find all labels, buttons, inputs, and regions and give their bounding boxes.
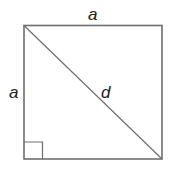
label-top-side: a <box>88 5 97 24</box>
label-diagonal: d <box>101 83 111 102</box>
square-diagram: a a d <box>0 0 170 174</box>
diagonal-line <box>24 26 162 160</box>
right-angle-marker <box>24 142 43 159</box>
label-left-side: a <box>9 83 18 102</box>
